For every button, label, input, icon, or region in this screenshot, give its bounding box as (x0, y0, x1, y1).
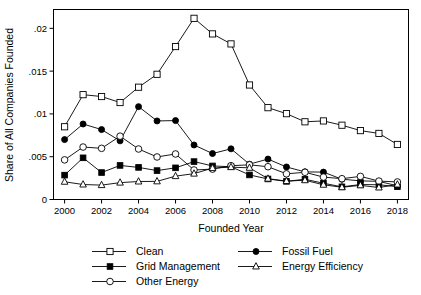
x-axis-title: Founded Year (198, 222, 264, 234)
data-point-open-square (302, 119, 308, 125)
data-point-filled-circle (136, 104, 142, 110)
y-axis-ticks: 0.005.01.015.02 (29, 23, 54, 205)
x-tick-label: 2018 (387, 205, 408, 216)
y-tick-label: 0 (42, 194, 47, 205)
x-tick-label: 2000 (54, 205, 75, 216)
data-point-open-square (80, 92, 86, 98)
legend-item-label: Grid Management (136, 260, 220, 272)
data-point-open-square (209, 31, 215, 37)
data-point-open-circle (80, 144, 87, 151)
data-point-open-square (376, 130, 382, 136)
data-point-filled-circle (99, 127, 105, 133)
data-point-open-circle (265, 163, 272, 170)
x-axis-ticks: 2000200220042006200820102012201420162018 (54, 200, 408, 217)
data-point-filled-circle (173, 118, 179, 124)
data-point-open-square (61, 124, 67, 130)
data-point-open-square (172, 43, 178, 49)
data-point-open-circle (357, 173, 364, 180)
legend-item-label: Other Energy (136, 275, 199, 287)
data-point-open-triangle (61, 178, 68, 184)
data-point-open-circle (135, 146, 142, 153)
legend-item-label: Fossil Fuel (282, 245, 333, 257)
series-line (65, 18, 398, 144)
data-point-filled-square (247, 172, 253, 178)
series-layer (61, 15, 400, 190)
legend-item-label: Energy Efficiency (282, 260, 364, 272)
data-point-filled-circle (228, 146, 234, 152)
data-point-filled-circle (80, 121, 86, 127)
y-axis-title: Share of All Companies Founded (3, 28, 15, 182)
data-point-open-square (265, 105, 271, 111)
data-point-open-square (246, 82, 252, 88)
data-point-open-circle (339, 175, 346, 182)
data-point-open-circle (154, 154, 161, 161)
x-tick-label: 2010 (239, 205, 260, 216)
data-point-open-circle (302, 169, 309, 176)
y-tick-label: .02 (34, 23, 47, 34)
line-chart: 0.005.01.015.02 200020022004200620082010… (0, 0, 421, 295)
series-clean (61, 15, 400, 147)
data-point-open-circle (61, 157, 68, 164)
y-tick-label: .005 (29, 151, 48, 162)
series-line (65, 136, 398, 182)
x-tick-label: 2004 (128, 205, 149, 216)
y-tick-label: .01 (34, 108, 47, 119)
data-point-open-circle (107, 278, 114, 285)
data-point-filled-square (136, 165, 142, 171)
data-point-filled-circle (253, 249, 259, 255)
x-tick-label: 2012 (276, 205, 297, 216)
data-point-open-square (228, 41, 234, 47)
data-point-open-square (135, 84, 141, 90)
data-point-open-triangle (117, 179, 124, 185)
data-point-filled-circle (62, 137, 68, 143)
data-point-open-triangle (135, 178, 142, 184)
x-tick-label: 2016 (350, 205, 371, 216)
legend-item-label: Clean (136, 245, 164, 257)
x-tick-label: 2006 (165, 205, 186, 216)
series-fossil-fuel (62, 104, 401, 189)
data-point-open-circle (320, 174, 327, 181)
data-point-filled-square (80, 155, 86, 161)
legend-item-fossil-fuel[interactable]: Fossil Fuel (238, 245, 333, 257)
legend-item-clean[interactable]: Clean (92, 245, 164, 257)
data-point-open-circle (117, 133, 124, 140)
x-tick-label: 2002 (91, 205, 112, 216)
series-grid-management (62, 155, 400, 190)
series-other-energy (61, 133, 400, 185)
data-point-open-square (357, 128, 363, 134)
data-point-open-circle (283, 171, 290, 178)
data-point-filled-circle (191, 142, 197, 148)
data-point-filled-square (191, 159, 197, 165)
data-point-open-square (283, 111, 289, 117)
data-point-open-circle (98, 145, 105, 152)
data-point-open-square (394, 141, 400, 147)
data-point-open-square (339, 122, 345, 128)
data-point-open-square (320, 118, 326, 124)
data-point-filled-square (173, 165, 179, 171)
data-point-open-square (117, 99, 123, 105)
x-tick-label: 2014 (313, 205, 334, 216)
data-point-filled-circle (210, 151, 216, 157)
data-point-open-square (107, 248, 113, 254)
data-point-filled-square (117, 163, 123, 169)
data-point-open-triangle (253, 263, 260, 269)
data-point-open-square (191, 15, 197, 21)
data-point-open-square (154, 71, 160, 77)
series-line (65, 167, 398, 187)
data-point-filled-square (107, 264, 113, 270)
data-point-open-circle (172, 151, 179, 158)
data-point-filled-square (154, 168, 160, 174)
data-point-filled-circle (283, 164, 289, 170)
data-point-open-square (98, 93, 104, 99)
data-point-filled-circle (154, 118, 160, 124)
data-point-filled-circle (265, 156, 271, 162)
x-tick-label: 2008 (202, 205, 223, 216)
y-tick-label: .015 (29, 66, 48, 77)
legend-item-energy-efficiency[interactable]: Energy Efficiency (238, 260, 364, 272)
legend-item-other-energy[interactable]: Other Energy (92, 275, 199, 287)
chart-figure: 0.005.01.015.02 200020022004200620082010… (0, 0, 421, 295)
legend-item-grid-management[interactable]: Grid Management (92, 260, 220, 272)
chart-legend: CleanFossil FuelGrid ManagementEnergy Ef… (92, 245, 364, 287)
data-point-filled-square (99, 170, 105, 176)
